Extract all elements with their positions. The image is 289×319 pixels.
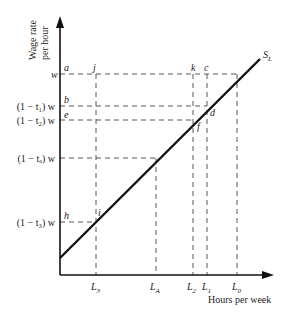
y-label-line2: per hour	[39, 26, 50, 60]
x-axis-title: Hours per week	[208, 294, 271, 305]
x-axis-arrow-icon	[262, 271, 274, 279]
y-tick-t1: (1 − t₁) w	[17, 101, 56, 113]
point-c: c	[204, 62, 209, 73]
y-tick-tA: (1 − tₐ) w	[17, 153, 55, 165]
point-k: k	[191, 62, 196, 73]
y-tick-w: w	[51, 69, 58, 80]
supply-curve	[60, 59, 260, 258]
y-tick-t3: (1 − t₃) w	[17, 217, 56, 229]
y-axis-title: Wage rate per hour	[27, 19, 50, 60]
diagram-canvas: Wage rate per hour w (1 − t₁) w (1 − t₂)…	[0, 0, 289, 319]
point-b: b	[64, 94, 69, 105]
guide-lines	[60, 74, 237, 275]
point-d: d	[210, 107, 216, 118]
point-i: i	[98, 207, 101, 218]
y-label-line1: Wage rate	[27, 19, 38, 60]
point-a: a	[64, 62, 69, 73]
y-tick-t2: (1 − t₂) w	[17, 115, 56, 127]
labor-supply-diagram: Wage rate per hour w (1 − t₁) w (1 − t₂)…	[0, 0, 289, 319]
point-h: h	[64, 210, 69, 221]
x-tick-L0: L0	[231, 281, 242, 295]
x-tick-LA: LA	[149, 281, 161, 295]
x-tick-L2: L2	[186, 281, 197, 295]
point-e: e	[64, 109, 69, 120]
point-f: f	[197, 121, 201, 132]
y-axis-arrow-icon	[56, 16, 64, 28]
point-j: j	[91, 62, 96, 73]
x-tick-L1: L1	[201, 281, 211, 295]
supply-curve-label: SL	[263, 49, 272, 63]
x-tick-L3: L3	[90, 281, 101, 295]
